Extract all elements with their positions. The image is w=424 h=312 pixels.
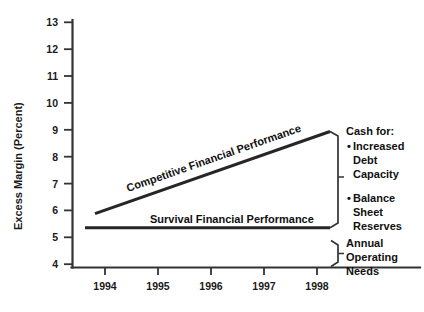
y-tick-label: 10 <box>46 97 58 109</box>
competitive-performance-line <box>95 132 330 214</box>
y-tick-label: 13 <box>46 16 58 28</box>
cash-item-debt: Debt <box>353 154 378 166</box>
cash-item-sheet: Sheet <box>353 206 383 218</box>
survival-performance-label: Survival Financial Performance <box>150 213 314 225</box>
needs-line-operating: Operating <box>346 251 398 263</box>
cash-for-annotation: Cash for: • Increased Debt Capacity • Ba… <box>346 125 404 232</box>
y-axis-title: Excess Margin (Percent) <box>12 102 24 230</box>
annual-operating-needs-bracket <box>331 241 344 267</box>
y-tick-label: 5 <box>52 231 58 243</box>
y-tick-label: 7 <box>52 178 58 190</box>
x-tick-label: 1996 <box>199 280 223 292</box>
cash-item-balance: Balance <box>353 192 395 204</box>
x-tick-label: 1997 <box>252 280 276 292</box>
x-tick-label: 1998 <box>305 280 329 292</box>
bullet-icon: • <box>347 192 351 204</box>
y-tick-label: 11 <box>47 70 58 82</box>
y-tick-marks <box>64 22 72 264</box>
x-tick-label: 1995 <box>146 280 170 292</box>
cash-for-heading: Cash for: <box>346 125 394 137</box>
y-tick-label: 8 <box>52 151 58 163</box>
y-tick-label: 4 <box>52 258 58 270</box>
needs-line-needs: Needs <box>346 265 379 277</box>
bullet-icon: • <box>347 140 351 152</box>
cash-item-capacity: Capacity <box>353 168 400 180</box>
chart-container: Excess Margin (Percent) 13 12 11 10 9 8 … <box>0 0 424 312</box>
needs-line-annual: Annual <box>346 237 383 249</box>
annual-operating-needs-annotation: Annual Operating Needs <box>346 237 398 277</box>
cash-for-bracket <box>330 132 344 228</box>
cash-item-reserves: Reserves <box>353 220 402 232</box>
y-tick-label: 12 <box>46 43 58 55</box>
x-tick-label: 1994 <box>93 280 117 292</box>
y-tick-labels: 13 12 11 10 9 8 7 6 5 4 <box>46 16 58 270</box>
cash-item-increased: Increased <box>353 140 404 152</box>
y-tick-label: 9 <box>52 124 58 136</box>
chart-svg: Excess Margin (Percent) 13 12 11 10 9 8 … <box>0 0 424 312</box>
competitive-performance-label: Competitive Financial Performance <box>125 122 303 194</box>
x-tick-labels: 1994 1995 1996 1997 1998 <box>93 280 329 292</box>
y-tick-label: 6 <box>52 204 58 216</box>
x-tick-marks <box>105 268 317 276</box>
